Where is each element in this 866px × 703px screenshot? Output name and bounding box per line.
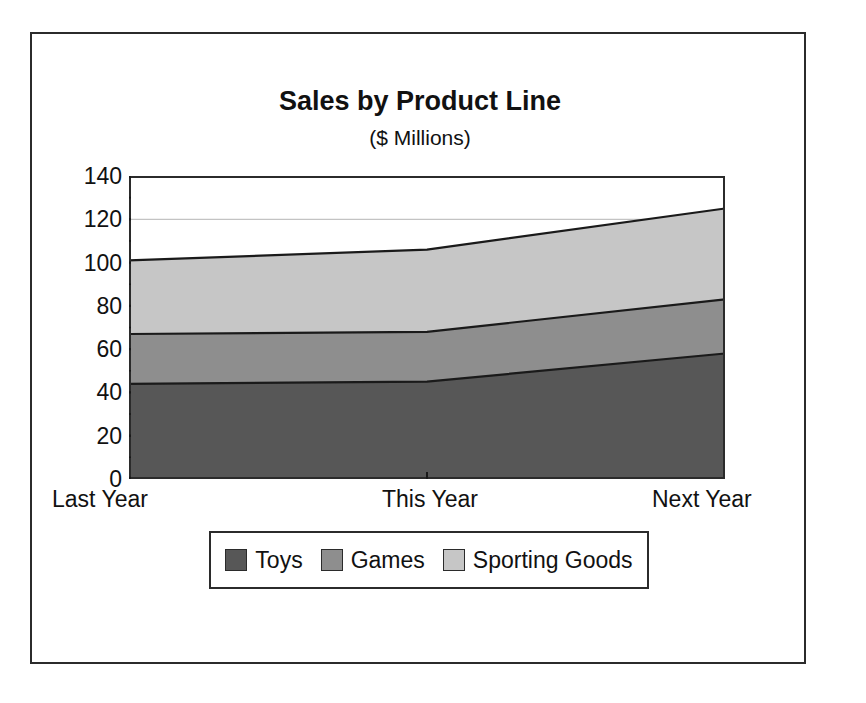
stacked-area-chart xyxy=(129,176,725,479)
y-tick-100: 100 xyxy=(52,252,122,275)
y-tick-40: 40 xyxy=(52,381,122,404)
y-tick-120: 120 xyxy=(52,208,122,231)
x-tick-last-year: Last Year xyxy=(52,486,148,512)
chart-title: Sales by Product Line xyxy=(32,86,808,117)
chart-subtitle: ($ Millions) xyxy=(32,126,808,150)
legend-swatch-toys-icon xyxy=(225,549,247,571)
x-axis-tick-labels: Last Year This Year Next Year xyxy=(52,486,792,516)
legend-label-sporting-goods: Sporting Goods xyxy=(473,549,633,572)
legend-item-games: Games xyxy=(321,549,425,572)
y-tick-20: 20 xyxy=(52,425,122,448)
plot-area xyxy=(129,176,725,479)
figure-frame: Sales by Product Line ($ Millions) 140 1… xyxy=(30,32,806,664)
x-tick-next-year: Next Year xyxy=(652,486,752,512)
legend-swatch-games-icon xyxy=(321,549,343,571)
x-tick-this-year: This Year xyxy=(382,486,478,512)
legend-label-toys: Toys xyxy=(255,549,302,572)
legend-item-sporting-goods: Sporting Goods xyxy=(443,549,633,572)
legend-swatch-sporting-goods-icon xyxy=(443,549,465,571)
chart-legend: Toys Games Sporting Goods xyxy=(209,531,649,589)
legend-label-games: Games xyxy=(351,549,425,572)
y-tick-60: 60 xyxy=(52,338,122,361)
y-tick-80: 80 xyxy=(52,295,122,318)
legend-item-toys: Toys xyxy=(225,549,302,572)
y-tick-140: 140 xyxy=(52,165,122,188)
y-axis-tick-labels: 140 120 100 80 60 40 20 0 xyxy=(52,176,122,479)
